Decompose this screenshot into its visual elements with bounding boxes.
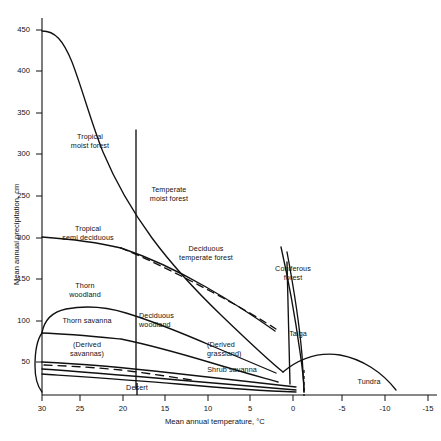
- region-label-thorn-savanna: Thorn savanna: [47, 317, 127, 326]
- y-axis-title: Mean annual precipitation, cm: [12, 184, 21, 285]
- x-tick-neg5: -5: [327, 404, 357, 413]
- x-tick-5: 5: [235, 404, 265, 413]
- y-tick-350: 350: [4, 108, 30, 117]
- y-tick-450: 450: [4, 25, 30, 34]
- axis-lines: [42, 18, 437, 395]
- figure-caption: [0, 433, 441, 441]
- biome-classification-figure: 450 400 350 300 250 200 150 100 50 30 25…: [0, 0, 441, 441]
- y-tick-400: 400: [4, 66, 30, 75]
- region-label-tropical-moist-forest: Tropical moist forest: [55, 133, 125, 150]
- x-tick-neg10: -10: [370, 404, 400, 413]
- region-label-temperate-moist-forest: Temperate moist forest: [138, 186, 200, 203]
- y-tick-100: 100: [4, 316, 30, 325]
- region-label-thorn-woodland: Thorn woodland: [55, 282, 115, 299]
- x-tick-10: 10: [193, 404, 223, 413]
- region-label-desert: Desert: [118, 384, 156, 393]
- x-tick-25: 25: [65, 404, 95, 413]
- x-tick-15: 15: [150, 404, 180, 413]
- boundary-curves: [35, 31, 396, 392]
- x-axis-title: Mean annual temperature, °C: [165, 417, 265, 426]
- region-label-derived-savannas: (Derived savannas): [55, 341, 119, 358]
- x-tick-30: 30: [27, 404, 57, 413]
- biome-diagram-svg: [0, 0, 441, 441]
- y-tick-50: 50: [4, 357, 30, 366]
- region-label-tropical-semi-deciduous: Tropical semi deciduous: [44, 225, 132, 242]
- region-label-taiga: Taiga: [281, 330, 315, 339]
- region-label-shrub-savanna: Shrub savanna: [196, 366, 268, 375]
- y-tick-300: 300: [4, 149, 30, 158]
- x-tick-0: 0: [278, 404, 308, 413]
- y-axis-ticks: [36, 30, 42, 362]
- x-tick-20: 20: [108, 404, 138, 413]
- x-tick-neg15: -15: [413, 404, 441, 413]
- region-label-deciduous-temperate-forest: Deciduous temperate forest: [160, 245, 252, 262]
- region-label-coniferous-forest: Coniferous forest: [265, 265, 321, 282]
- region-label-tundra: Tundra: [350, 378, 388, 387]
- region-label-deciduous-woodland: Deciduous woodland: [139, 312, 203, 329]
- region-label-derived-grassland: (Derived grassland): [207, 341, 269, 358]
